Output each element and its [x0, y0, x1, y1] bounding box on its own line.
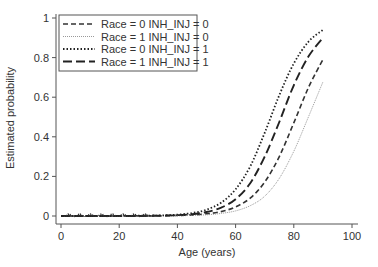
y-tick-label: 1	[43, 12, 49, 24]
legend-label: Race = 1 INH_INJ = 1	[101, 56, 209, 68]
legend: Race = 0 INH_INJ = 0Race = 1 INH_INJ = 0…	[59, 15, 209, 71]
x-tick-label: 40	[171, 230, 183, 242]
y-tick-label: 0.4	[34, 131, 49, 143]
y-tick-label: 0.2	[34, 170, 49, 182]
legend-label: Race = 0 INH_INJ = 0	[101, 18, 209, 30]
x-tick-label: 100	[343, 230, 361, 242]
x-tick-label: 80	[288, 230, 300, 242]
x-axis-title: Age (years)	[179, 246, 236, 258]
legend-label: Race = 1 INH_INJ = 0	[101, 31, 209, 43]
x-tick-label: 0	[58, 230, 64, 242]
y-axis-title: Estimated probability	[4, 66, 16, 169]
chart: 02040608010000.20.40.60.81 Race = 0 INH_…	[0, 0, 378, 267]
y-tick-label: 0	[43, 210, 49, 222]
x-tick-label: 20	[113, 230, 125, 242]
y-tick-label: 0.6	[34, 91, 49, 103]
legend-label: Race = 0 INH_INJ = 1	[101, 43, 209, 55]
x-tick-label: 60	[229, 230, 241, 242]
y-tick-label: 0.8	[34, 52, 49, 64]
